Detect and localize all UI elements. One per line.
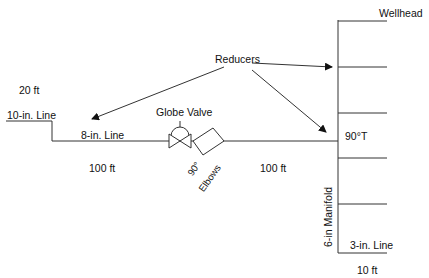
distance-10ft-label: 10 ft — [357, 265, 377, 276]
reducer-arrow-2 — [252, 63, 332, 67]
distance-20ft-label: 20 ft — [19, 85, 39, 96]
wellhead-label: Wellhead — [379, 8, 423, 19]
line-3in-label: 3-in. Line — [350, 240, 393, 251]
reducer-arrow-3 — [252, 70, 326, 132]
line-10in-label: 10-in. Line — [7, 110, 56, 121]
tee-90-label: 90°T — [345, 131, 367, 142]
manifold-6in-label: 6-in Manifold — [323, 187, 334, 247]
distance-100ft-left-label: 100 ft — [89, 163, 115, 174]
pipe-10in-line — [6, 121, 52, 141]
reducers-label: Reducers — [215, 54, 260, 65]
distance-100ft-right-label: 100 ft — [260, 163, 286, 174]
globe-valve-label: Globe Valve — [156, 107, 212, 118]
elbows-icon — [193, 128, 224, 155]
globe-valve-icon — [169, 121, 191, 148]
line-8in-label: 8-in. Line — [81, 130, 124, 141]
